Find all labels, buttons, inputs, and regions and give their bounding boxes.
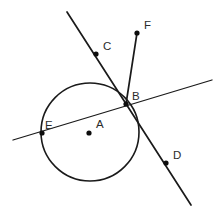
geometry-figure: A B C D E F [0, 0, 216, 214]
point-label-c: C [103, 40, 111, 52]
point-label-e: E [45, 119, 53, 131]
point-dot-f [134, 30, 139, 35]
point-dot-d [163, 160, 168, 165]
point-dot-b [123, 101, 128, 106]
point-dot-a [86, 130, 91, 135]
secant-line-cd [67, 12, 191, 205]
point-label-f: F [144, 19, 151, 31]
point-label-b: B [132, 90, 140, 102]
diagram-canvas: A B C D E F [0, 0, 216, 214]
point-label-a: A [96, 118, 104, 130]
point-dot-c [93, 51, 98, 56]
point-label-d: D [173, 149, 181, 161]
point-dot-e [39, 130, 44, 135]
